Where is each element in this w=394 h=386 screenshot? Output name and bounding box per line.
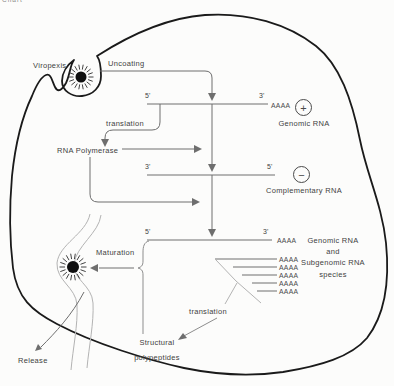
translation-subgenomic-label: translation [189,307,227,316]
negative-polarity-badge: − [293,166,310,183]
vesicle-membrane-left [57,214,90,370]
positive-polarity-badge: + [295,99,312,116]
clipped-text-fragment: Chart [2,0,23,3]
virus-particle-viropexis [69,65,94,90]
genomic-5prime-label: 5' [145,91,151,100]
viropexis-label: Viropexis [33,61,66,70]
progeny-3prime-label: 3' [263,227,269,236]
genomic-subgenomic-label-line1: Genomic RNA [293,236,373,245]
genomic-polya-label: AAAA [271,101,290,110]
uncoating-label: Uncoating [108,59,144,68]
structural-polypeptides-line2: polypeptides [117,353,197,362]
flow-arrowhead-2-icon [208,229,216,237]
rna-polymerase-arrowhead-icon [194,145,202,153]
release-arrowhead-icon [35,344,42,351]
flow-arrowhead-1-icon [208,164,216,172]
genomic-rna-label: Genomic RNA [264,119,344,128]
translation-arrow-2 [182,318,217,337]
maturation-brace [138,241,149,334]
complementary-3prime-label: 3' [145,162,151,171]
figure-canvas: Chart Viropexis Uncoating translation RN… [0,0,394,386]
subgenomic-brace [216,260,261,303]
release-label: Release [18,356,48,365]
maturation-label: Maturation [96,248,134,257]
genomic-subgenomic-label-line2: and [293,247,373,256]
genomic-subgenomic-label-line4: species [293,270,373,279]
subgenomic-polya-5: AAAA [279,287,298,296]
subgenomic-translation-connector [225,283,237,304]
rna-polymerase-label: RNA Polymerase [57,146,118,155]
genomic-3prime-label: 3' [259,91,265,100]
complementary-rna-label: Complementary RNA [259,186,349,195]
template-arrowhead-icon [192,198,200,206]
structural-polypeptides-line1: Structural [117,338,197,347]
rna-polymerase-template-arrow [90,157,193,202]
genomic-subgenomic-label-line3: Subgenomic RNA [293,258,373,267]
maturation-arrowhead-icon [90,264,98,272]
translation-genomic-label: translation [106,119,144,128]
uncoating-arrow [100,71,212,94]
progeny-5prime-label: 5' [145,227,151,236]
complementary-5prime-label: 5' [267,162,273,171]
virus-particle-maturing [60,254,87,281]
uncoating-arrowhead-icon [208,93,216,101]
vesicle-membrane-right [74,215,101,368]
